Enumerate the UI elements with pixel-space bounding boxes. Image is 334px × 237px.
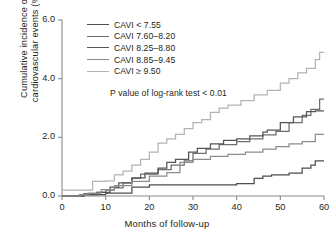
legend-item: CAVI < 7.55	[87, 19, 175, 31]
legend-item-label: CAVI ≥ 9.50	[114, 66, 161, 76]
x-axis-tick-label: 40	[224, 202, 250, 212]
y-axis-tick-label: 0.0	[29, 190, 55, 200]
legend-item-label: CAVI 7.60–8.20	[114, 31, 175, 41]
legend-line-swatch-icon	[87, 59, 109, 60]
chart-legend: CAVI < 7.55CAVI 7.60–8.20CAVI 8.25–8.80C…	[87, 19, 175, 77]
legend-line-swatch-icon	[87, 47, 109, 48]
x-axis-tick-label: 20	[136, 202, 162, 212]
legend-item: CAVI 8.85–9.45	[87, 54, 175, 66]
series-line-cavi-8-85-9-45	[62, 134, 324, 196]
legend-item: CAVI 7.60–8.20	[87, 31, 175, 43]
x-axis-label: Months of follow-up	[0, 218, 334, 229]
y-axis-tick-label: 6.0	[29, 14, 55, 24]
y-axis-tick-label: 2.0	[29, 131, 55, 141]
legend-item-label: CAVI 8.85–9.45	[114, 55, 175, 65]
legend-item-label: CAVI < 7.55	[114, 20, 161, 30]
x-axis-tick-label: 30	[180, 202, 206, 212]
legend-line-swatch-icon	[87, 36, 109, 37]
log-rank-pvalue-annotation: P value of log-rank test < 0.01	[110, 88, 227, 98]
legend-item: CAVI ≥ 9.50	[87, 65, 175, 77]
figure-cumulative-incidence-chart: Cumulative incidence of cardiovascular e…	[0, 0, 334, 237]
x-axis-tick-label: 10	[93, 202, 119, 212]
x-axis-tick-label: 60	[311, 202, 334, 212]
legend-item-label: CAVI 8.25–8.80	[114, 43, 175, 53]
legend-line-swatch-icon	[87, 71, 109, 72]
legend-item: CAVI 8.25–8.80	[87, 42, 175, 54]
x-axis-tick-label: 50	[267, 202, 293, 212]
legend-line-swatch-icon	[87, 24, 109, 25]
y-axis-tick-label: 4.0	[29, 73, 55, 83]
x-axis-tick-label: 0	[49, 202, 75, 212]
